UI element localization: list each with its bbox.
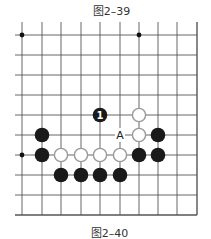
black-stone [132, 148, 147, 163]
white-stone [74, 148, 87, 161]
black-stone [151, 148, 166, 163]
white-stone [54, 148, 67, 161]
black-stone [113, 168, 128, 183]
figure-caption-bottom: 图2–40 [4, 224, 211, 239]
go-board: 1A [0, 0, 211, 239]
point-label: A [116, 129, 124, 142]
white-stone [132, 108, 145, 121]
star-point [137, 33, 142, 38]
star-point [20, 153, 25, 158]
white-stone [113, 148, 126, 161]
black-stone [35, 148, 50, 163]
white-stone [132, 128, 145, 141]
black-stone [35, 128, 50, 143]
move-number-label: 1 [97, 110, 104, 121]
white-stone [93, 148, 106, 161]
black-stone [74, 168, 89, 183]
star-point [20, 33, 25, 38]
black-stone [151, 128, 166, 143]
black-stone [54, 168, 69, 183]
black-stone [93, 168, 108, 183]
